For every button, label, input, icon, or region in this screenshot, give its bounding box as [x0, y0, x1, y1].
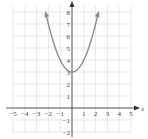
y-tick-label: 5 [67, 45, 71, 53]
y-tick-label: −1 [63, 117, 71, 125]
y-axis-arrow-icon [70, 1, 75, 7]
x-tick-label: 4 [117, 110, 121, 118]
x-tick-labels: −5−4−3−2−112345 [9, 110, 133, 118]
y-tick-labels: −2−112345678 [63, 9, 71, 137]
x-tick-label: −4 [21, 110, 29, 118]
y-tick-label: 1 [67, 93, 71, 101]
x-tick-label: −2 [45, 110, 53, 118]
x-axis-arrow-icon [134, 106, 140, 111]
x-tick-label: −5 [9, 110, 17, 118]
y-tick-label: 4 [67, 57, 71, 65]
y-axis [70, 1, 75, 137]
x-tick-label: 2 [94, 110, 98, 118]
x-tick-label: 3 [106, 110, 110, 118]
y-tick-label: 6 [67, 33, 71, 41]
y-tick-label: −2 [63, 129, 71, 137]
x-tick-label: −3 [33, 110, 41, 118]
x-tick-label: 5 [129, 110, 133, 118]
x-tick-label: 1 [82, 110, 86, 118]
parabola-chart: x −5−4−3−2−112345 −2−112345678 [0, 0, 148, 139]
x-axis-label: x [140, 105, 145, 113]
y-tick-label: 7 [67, 21, 71, 29]
y-tick-label: 8 [67, 9, 71, 17]
y-tick-label: 2 [67, 81, 71, 89]
